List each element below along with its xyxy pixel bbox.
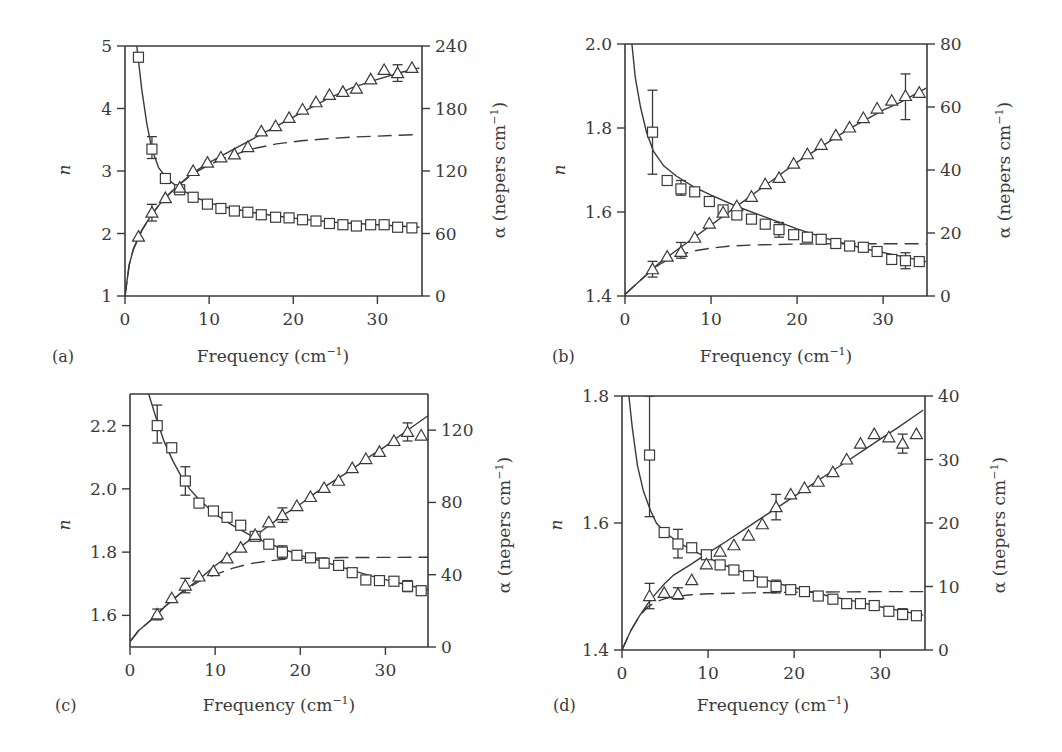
right-tick-label: 80 (441, 492, 463, 512)
square-marker (799, 587, 809, 597)
triangle-marker (378, 64, 390, 75)
panel-label: (d) (553, 696, 576, 715)
triangle-marker (913, 87, 925, 98)
square-marker (813, 591, 823, 601)
square-marker (403, 581, 413, 591)
right-tick-label: 0 (938, 640, 949, 660)
right-axis-title: α (nepers cm−1) (493, 457, 514, 593)
triangle-marker (346, 462, 358, 473)
x-axis-title: Frequency (cm−1) (697, 694, 849, 715)
square-marker (774, 225, 784, 235)
triangle-marker (415, 430, 427, 441)
square-marker (264, 539, 274, 549)
triangle-marker (731, 200, 743, 211)
triangle-marker (263, 516, 275, 527)
left-axis-title: n (54, 165, 74, 176)
triangle-marker (291, 500, 303, 511)
triangle-marker (337, 86, 349, 97)
x-tick-label: 10 (700, 309, 722, 329)
panel-b-chart: 01020301.41.61.82.0020406080Frequency (c… (549, 34, 1014, 366)
square-marker (760, 219, 770, 229)
square-marker (884, 606, 894, 616)
square-marker (662, 176, 672, 186)
x-tick-label: 30 (375, 660, 397, 680)
x-tick-label: 20 (783, 663, 805, 683)
panel-label: (a) (52, 347, 74, 366)
right-tick-label: 60 (435, 224, 457, 244)
right-axis-title: α (nepers cm−1) (993, 102, 1014, 238)
square-marker (167, 443, 177, 453)
left-tick-label: 1.8 (90, 542, 117, 562)
triangle-marker (868, 428, 880, 439)
square-marker (147, 144, 157, 154)
left-tick-label: 2 (101, 224, 112, 244)
triangle-marker (305, 491, 317, 502)
square-marker (366, 220, 376, 230)
triangle-marker (910, 428, 922, 439)
square-marker (869, 601, 879, 611)
square-marker (828, 594, 838, 604)
x-axis-title: Frequency (cm−1) (700, 345, 852, 366)
square-marker (338, 220, 348, 230)
panel-label: (b) (552, 347, 575, 366)
triangle-marker (759, 178, 771, 189)
square-marker (771, 582, 781, 592)
square-marker (659, 528, 669, 538)
square-marker (645, 450, 655, 460)
right-tick-label: 40 (441, 565, 463, 585)
triangle-marker (297, 104, 309, 115)
square-marker (900, 256, 910, 266)
square-marker (374, 576, 384, 586)
right-tick-label: 120 (435, 161, 467, 181)
right-tick-label: 20 (938, 513, 960, 533)
left-axis-title: n (549, 165, 569, 176)
triangle-marker (728, 539, 740, 550)
triangle-marker (365, 73, 377, 84)
square-marker (256, 210, 266, 220)
right-tick-label: 180 (435, 99, 467, 119)
square-marker (298, 215, 308, 225)
triangle-marker (857, 112, 869, 123)
square-marker (222, 512, 232, 522)
left-tick-label: 2.0 (585, 34, 612, 54)
triangle-marker (318, 482, 330, 493)
square-marker (648, 127, 658, 137)
square-marker (858, 242, 868, 252)
triangle-marker (276, 509, 288, 519)
square-marker (715, 560, 725, 570)
square-marker (407, 223, 417, 233)
triangle-marker (897, 438, 909, 449)
right-tick-label: 30 (938, 450, 960, 470)
square-marker (744, 571, 754, 581)
left-tick-label: 1 (101, 286, 112, 306)
square-marker (216, 204, 226, 214)
triangle-marker (132, 231, 144, 242)
square-marker (845, 241, 855, 251)
panel-c-chart: 01020301.61.82.02.204080120Frequency (cm… (54, 394, 514, 715)
triangle-marker (773, 172, 785, 183)
left-tick-label: 1.6 (582, 513, 609, 533)
right-tick-label: 20 (940, 223, 962, 243)
square-marker (229, 206, 239, 216)
x-axis-title: Frequency (cm−1) (203, 694, 355, 715)
square-marker (914, 257, 924, 267)
square-marker (160, 174, 170, 184)
triangle-marker (743, 530, 755, 541)
square-marker (673, 539, 683, 549)
square-marker (872, 246, 882, 256)
square-marker (789, 230, 799, 240)
triangle-marker (661, 251, 673, 262)
axes-frame (622, 396, 925, 650)
square-marker (732, 210, 742, 220)
left-tick-label: 1.4 (582, 640, 609, 660)
triangle-marker (255, 125, 267, 136)
square-marker (842, 599, 852, 609)
square-marker (757, 577, 767, 587)
axes-frame (130, 394, 428, 647)
square-marker (202, 199, 212, 209)
triangle-marker (242, 141, 254, 152)
square-marker (311, 216, 321, 226)
square-marker (816, 234, 826, 244)
right-axis-title: α (nepers cm−1) (988, 457, 1009, 593)
panel-a-chart: 010203012345060120180240Frequency (cm−1)… (52, 36, 509, 366)
